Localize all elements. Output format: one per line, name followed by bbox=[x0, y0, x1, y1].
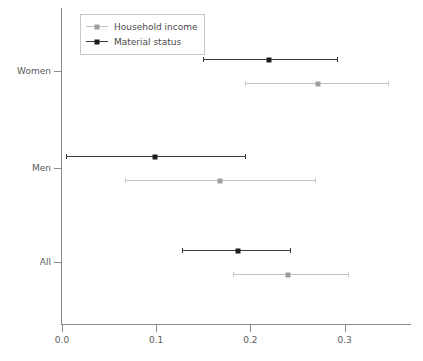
confidence-interval-cap bbox=[388, 81, 389, 86]
x-tick bbox=[345, 325, 346, 332]
confidence-interval-line bbox=[233, 274, 348, 275]
y-ticklabel-men: Men bbox=[32, 163, 51, 173]
y-ticklabel-women: Women bbox=[17, 66, 51, 76]
confidence-interval-cap bbox=[245, 81, 246, 86]
estimate-marker bbox=[236, 248, 241, 253]
confidence-interval-cap bbox=[337, 57, 338, 62]
confidence-interval-cap bbox=[245, 154, 246, 159]
legend-item-label: Material status bbox=[114, 37, 181, 47]
y-tick bbox=[54, 262, 61, 263]
y-tick bbox=[54, 71, 61, 72]
x-ticklabel: 0.2 bbox=[243, 335, 257, 345]
x-ticklabel: 0.1 bbox=[149, 335, 163, 345]
y-ticklabel-all: All bbox=[40, 257, 51, 267]
confidence-interval-cap bbox=[290, 248, 291, 253]
confidence-interval-cap bbox=[233, 272, 234, 277]
estimate-marker bbox=[316, 81, 321, 86]
confidence-interval-cap bbox=[203, 57, 204, 62]
x-ticklabel: 0.0 bbox=[55, 335, 69, 345]
x-tick bbox=[250, 325, 251, 332]
x-ticklabel: 0.3 bbox=[337, 335, 351, 345]
legend: Household incomeMaterial status bbox=[80, 14, 205, 55]
estimate-marker bbox=[267, 57, 272, 62]
estimate-marker bbox=[153, 154, 158, 159]
confidence-interval-cap bbox=[66, 154, 67, 159]
estimate-marker bbox=[286, 272, 291, 277]
confidence-interval-cap bbox=[348, 272, 349, 277]
legend-marker-icon bbox=[86, 22, 108, 31]
legend-marker-icon bbox=[86, 37, 108, 46]
legend-item[interactable]: Material status bbox=[86, 34, 197, 49]
confidence-interval-cap bbox=[182, 248, 183, 253]
estimate-marker bbox=[218, 178, 223, 183]
forest-plot-figure: 0.00.10.20.3 WomenMenAll Household incom… bbox=[0, 0, 423, 361]
confidence-interval-cap bbox=[315, 178, 316, 183]
x-axis-line bbox=[61, 324, 411, 325]
x-tick bbox=[62, 325, 63, 332]
confidence-interval-cap bbox=[125, 178, 126, 183]
x-tick bbox=[156, 325, 157, 332]
legend-item-label: Household income bbox=[114, 22, 197, 32]
plot-area: 0.00.10.20.3 WomenMenAll Household incom… bbox=[0, 0, 423, 361]
y-tick bbox=[54, 168, 61, 169]
y-axis-line bbox=[61, 8, 62, 325]
legend-item[interactable]: Household income bbox=[86, 19, 197, 34]
